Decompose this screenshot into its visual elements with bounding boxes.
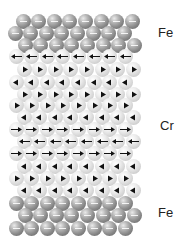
spin-mark-icon [28, 228, 35, 229]
spin-mark-icon [100, 45, 107, 46]
spin-mark-icon [82, 21, 89, 22]
fe-atom [87, 221, 102, 236]
spin-mark-icon [51, 21, 58, 22]
spin-mark-icon [113, 21, 120, 22]
arrow-left-icon [126, 183, 141, 198]
spin-mark-icon [37, 215, 44, 216]
spin-mark-icon [90, 33, 97, 34]
spin-mark-icon [98, 21, 105, 22]
spin-mark-icon [122, 228, 129, 229]
spin-mark-icon [131, 215, 138, 216]
spin-mark-icon [53, 45, 60, 46]
spin-mark-icon [68, 215, 75, 216]
spin-mark-icon [66, 21, 73, 22]
spin-mark-icon [115, 45, 122, 46]
spin-mark-icon [44, 228, 51, 229]
spin-mark-icon [106, 228, 113, 229]
spin-mark-icon [13, 228, 20, 229]
spin-mark-icon [27, 33, 34, 34]
spin-mark-icon [74, 33, 81, 34]
spin-mark-icon [44, 203, 51, 204]
spin-mark-icon [59, 203, 66, 204]
fe-atom [71, 221, 86, 236]
spin-mark-icon [53, 215, 60, 216]
spin-mark-icon [59, 228, 66, 229]
spin-mark-icon [105, 33, 112, 34]
spin-mark-icon [131, 45, 138, 46]
fe-atom [127, 208, 142, 223]
spin-mark-icon [75, 228, 82, 229]
fe-atom [55, 221, 70, 236]
spin-mark-icon [106, 203, 113, 204]
spin-mark-icon [35, 21, 42, 22]
spin-mark-icon [122, 203, 129, 204]
fe-atom [24, 221, 39, 236]
spin-mark-icon [13, 203, 20, 204]
fe-atom [118, 221, 133, 236]
label-cr: Cr [160, 118, 174, 133]
fe-atom [102, 221, 117, 236]
spin-mark-icon [75, 203, 82, 204]
spin-mark-icon [91, 203, 98, 204]
fe-atom [9, 221, 24, 236]
fe-atom [40, 221, 55, 236]
spin-mark-icon [91, 228, 98, 229]
spin-mark-icon [84, 45, 91, 46]
spin-mark-icon [22, 45, 29, 46]
spin-mark-icon [129, 21, 136, 22]
spin-mark-icon [37, 45, 44, 46]
spin-mark-icon [43, 33, 50, 34]
spin-mark-icon [84, 215, 91, 216]
fe-atom [8, 26, 23, 41]
spin-mark-icon [20, 21, 27, 22]
cr-atom [126, 183, 141, 198]
label-fe-top: Fe [158, 25, 173, 40]
spin-mark-icon [121, 33, 128, 34]
spin-mark-icon [100, 215, 107, 216]
spin-mark-icon [28, 203, 35, 204]
spin-mark-icon [68, 45, 75, 46]
spin-mark-icon [12, 33, 19, 34]
spin-mark-icon [115, 215, 122, 216]
fe-cr-fe-multilayer-diagram: Fe Cr Fe [0, 0, 185, 241]
spin-mark-icon [22, 215, 29, 216]
spin-mark-icon [58, 33, 65, 34]
label-fe-bottom: Fe [158, 205, 173, 220]
